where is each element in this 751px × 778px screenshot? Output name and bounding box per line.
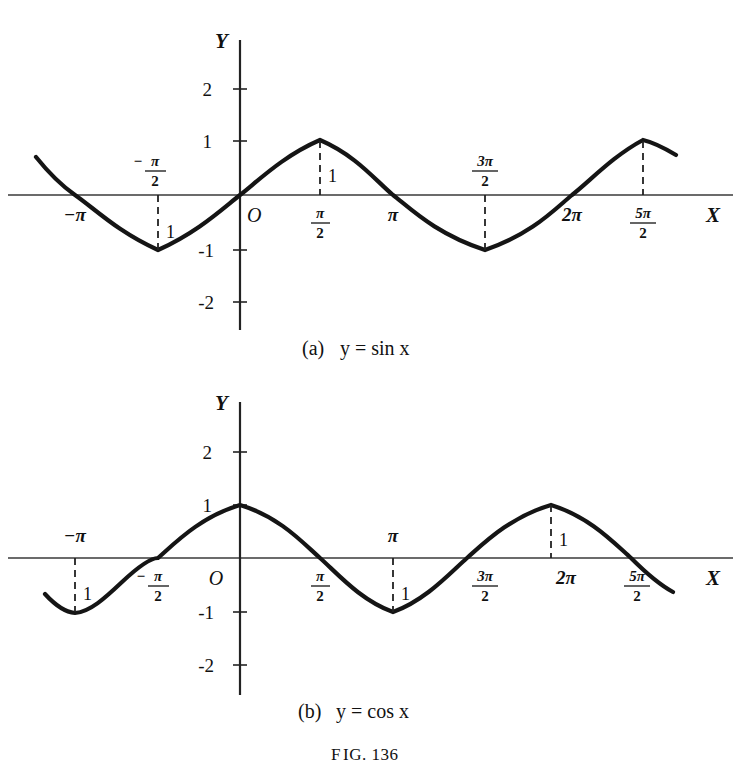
frac-numerator: π <box>154 568 163 584</box>
x-axis-label: X <box>705 203 721 227</box>
frac-denominator: 2 <box>481 588 489 604</box>
y-ticklabel-2: 2 <box>203 442 213 463</box>
frac-denominator: 2 <box>316 588 324 604</box>
frac-denominator: 2 <box>639 225 647 241</box>
frac-denominator: 2 <box>154 588 162 604</box>
y-ticklabel-1: 1 <box>203 495 213 516</box>
y-ticklabel-2: 2 <box>203 79 213 100</box>
frac-denominator: 2 <box>633 588 641 604</box>
y-ticklabel-neg2: -2 <box>198 655 214 676</box>
figure-label-ig: IG <box>343 745 362 764</box>
y-ticklabel-neg1: -1 <box>198 602 214 623</box>
frac-numerator: 5π <box>635 205 652 221</box>
caption-equation: y = sin x <box>340 337 410 360</box>
origin-label: O <box>247 204 261 226</box>
amplitude-label-half-pi: 1 <box>328 166 337 186</box>
x-ticklabel-neg-half-pi: − π 2 <box>136 568 169 604</box>
cosine-graph: Y X 2 1 -1 -2 O 1 1 1 −π − π 2 π 2 <box>0 360 751 778</box>
x-ticklabel-half-pi: π 2 <box>311 568 330 604</box>
frac-numerator: 3π <box>476 153 494 169</box>
caption-sine: (a) y = sin x <box>302 337 410 360</box>
figure-label-f: F <box>331 745 341 764</box>
frac-numerator: 5π <box>629 568 646 584</box>
x-ticklabel-two-pi: 2π <box>561 204 583 225</box>
frac-sign: − <box>133 153 142 169</box>
x-ticklabel-three-half-pi: 3π 2 <box>472 153 498 189</box>
x-axis-label: X <box>705 566 721 590</box>
caption-equation: y = cos x <box>336 700 409 723</box>
x-ticklabel-pi: π <box>388 525 399 546</box>
figure-label: F IG . 136 <box>331 745 399 764</box>
origin-label: O <box>209 567 223 589</box>
amplitude-label-two-pi: 1 <box>559 530 568 550</box>
frac-denominator: 2 <box>316 225 324 241</box>
x-ticklabel-neg-pi: −π <box>64 525 87 546</box>
figure-container: Y X 2 1 -1 -2 O 1 1 −π − π 2 π <box>0 0 751 778</box>
caption-part: (b) <box>298 700 321 723</box>
x-ticklabel-two-pi: 2π <box>555 567 577 588</box>
y-ticklabel-1: 1 <box>203 131 213 152</box>
caption-part: (a) <box>302 337 324 360</box>
sine-graph: Y X 2 1 -1 -2 O 1 1 −π − π 2 π <box>0 0 751 360</box>
amplitude-label-neg-half-pi: 1 <box>166 222 175 242</box>
x-ticklabel-neg-half-pi: − π 2 <box>133 153 166 189</box>
frac-denominator: 2 <box>151 173 159 189</box>
frac-numerator: π <box>151 153 160 169</box>
frac-numerator: 3π <box>476 568 494 584</box>
amplitude-label-pi: 1 <box>401 584 410 604</box>
cosine-curve <box>45 505 673 613</box>
frac-sign: − <box>136 568 145 584</box>
x-ticklabel-pi: π <box>388 204 399 225</box>
y-axis-label: Y <box>215 391 230 415</box>
caption-cosine: (b) y = cos x <box>298 700 409 723</box>
frac-numerator: π <box>316 568 325 584</box>
amplitude-label-neg-pi: 1 <box>83 584 92 604</box>
x-ticklabel-half-pi: π 2 <box>311 205 330 241</box>
y-axis-label: Y <box>215 29 230 53</box>
x-ticklabel-five-half-pi: 5π 2 <box>630 205 656 241</box>
y-ticklabel-neg1: -1 <box>198 240 214 261</box>
y-ticklabel-neg2: -2 <box>198 292 214 313</box>
figure-label-number: . 136 <box>362 745 399 764</box>
x-ticklabel-three-half-pi: 3π 2 <box>472 568 498 604</box>
x-ticklabel-neg-pi: −π <box>64 204 87 225</box>
frac-denominator: 2 <box>481 173 489 189</box>
frac-numerator: π <box>316 205 325 221</box>
